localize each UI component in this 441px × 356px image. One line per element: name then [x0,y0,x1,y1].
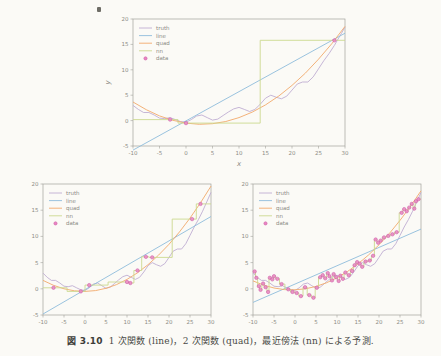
svg-text:nn: nn [66,213,73,219]
svg-text:-5: -5 [61,319,67,325]
svg-text:data: data [276,220,288,226]
svg-text:nn: nn [156,48,163,54]
svg-text:quad: quad [276,205,290,212]
svg-text:5: 5 [104,319,108,325]
svg-text:15: 15 [355,319,362,325]
svg-text:20: 20 [122,16,129,22]
svg-text:25: 25 [315,150,322,156]
svg-text:20: 20 [376,319,383,325]
svg-text:20: 20 [242,181,249,187]
svg-text:10: 10 [334,319,341,325]
svg-text:5: 5 [125,92,129,98]
plot-bottom-left: -10-5051015202530-505101520truthlinequad… [12,178,216,328]
svg-text:15: 15 [32,207,39,213]
svg-text:15: 15 [262,150,269,156]
caption-text: 1 次関数 (line)，2 次関数 (quad)，最近傍法 (nn) による予… [109,336,374,346]
svg-text:quad: quad [156,40,170,47]
svg-text:0: 0 [245,286,249,292]
svg-text:-5: -5 [123,143,129,149]
svg-text:15: 15 [145,319,152,325]
svg-text:20: 20 [32,181,39,187]
svg-text:0: 0 [35,286,39,292]
chart-bottom-right: -10-5051015202530-505101520truthlinequad… [222,178,426,328]
svg-text:10: 10 [124,319,131,325]
svg-text:y: y [104,80,112,86]
svg-text:10: 10 [122,67,129,73]
svg-text:line: line [66,198,77,204]
svg-text:30: 30 [342,150,349,156]
svg-text:10: 10 [32,233,39,239]
svg-text:nn: nn [276,213,283,219]
svg-text:truth: truth [276,190,290,196]
svg-text:x: x [236,160,242,168]
plot-top: -10-5051015202530-505101520xytruthlinequ… [96,12,352,172]
svg-text:0: 0 [125,118,129,124]
svg-text:-5: -5 [243,312,249,318]
svg-text:10: 10 [236,150,243,156]
svg-text:5: 5 [211,150,215,156]
svg-text:data: data [66,220,78,226]
svg-text:-5: -5 [33,312,39,318]
svg-text:5: 5 [35,260,39,266]
svg-text:truth: truth [156,25,170,31]
svg-text:line: line [156,33,167,39]
svg-text:30: 30 [418,319,425,325]
svg-text:5: 5 [314,319,318,325]
svg-text:-5: -5 [271,319,277,325]
figure-3-10: -10-5051015202530-505101520xytruthlinequ… [0,0,441,356]
svg-text:25: 25 [397,319,404,325]
svg-text:20: 20 [289,150,296,156]
svg-text:25: 25 [187,319,194,325]
svg-text:5: 5 [245,260,249,266]
chart-bottom-left: -10-5051015202530-505101520truthlinequad… [12,178,216,328]
chart-top: -10-5051015202530-505101520xytruthlinequ… [96,12,352,172]
svg-text:15: 15 [242,207,249,213]
svg-text:line: line [276,198,287,204]
svg-text:0: 0 [83,319,87,325]
svg-text:0: 0 [184,150,188,156]
svg-text:0: 0 [293,319,297,325]
figure-caption: 図 3.101 次関数 (line)，2 次関数 (quad)，最近傍法 (nn… [0,334,441,347]
svg-text:10: 10 [242,233,249,239]
svg-text:20: 20 [166,319,173,325]
svg-text:-5: -5 [157,150,163,156]
svg-text:truth: truth [66,190,80,196]
svg-text:30: 30 [208,319,215,325]
figure-number: 図 3.10 [67,336,103,346]
svg-text:15: 15 [122,41,129,47]
svg-text:quad: quad [66,205,80,212]
svg-text:data: data [156,55,168,61]
plot-bottom-right: -10-5051015202530-505101520truthlinequad… [222,178,426,328]
svg-text:-10: -10 [249,319,258,325]
svg-text:-10: -10 [39,319,48,325]
